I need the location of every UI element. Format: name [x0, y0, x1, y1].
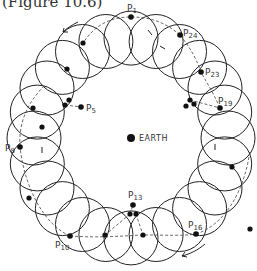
earth-label: EARTH — [139, 134, 168, 143]
position-dot — [133, 211, 138, 216]
epicycle-circle — [20, 161, 74, 215]
point-dot-p23 — [198, 69, 204, 75]
planet-position-dots — [17, 14, 252, 239]
epicycle-circle — [188, 161, 242, 215]
position-dot — [102, 232, 107, 237]
epicycle-circle — [104, 211, 158, 265]
epicycle-circle — [79, 15, 133, 69]
label-p5: P5 — [86, 103, 96, 115]
point-dot-p13 — [130, 202, 136, 208]
position-dot — [39, 124, 44, 129]
epicycle-circle — [56, 25, 110, 79]
epicycle-diagram: P1P24P23P19P5P8P13P16P10 EARTH — [0, 0, 257, 271]
point-dot-p10 — [67, 233, 73, 239]
position-dot — [66, 97, 71, 102]
point-dot-p24 — [177, 32, 183, 38]
position-dot — [26, 195, 31, 200]
epicycle-circle — [7, 111, 61, 165]
label-p23: P23 — [205, 67, 219, 79]
label-p13: P13 — [128, 190, 142, 202]
earth-dot — [127, 134, 135, 142]
point-dot-p5 — [78, 104, 84, 110]
label-p16: P16 — [188, 220, 203, 232]
position-dot — [140, 232, 145, 237]
point-dot-p1 — [128, 14, 134, 20]
position-dot — [127, 211, 132, 216]
position-dot — [191, 101, 196, 106]
label-p8: P8 — [5, 143, 15, 155]
position-dot — [62, 102, 67, 107]
position-dot — [183, 103, 188, 108]
label-p1: P1 — [127, 3, 137, 15]
epicycle-circle — [201, 111, 255, 165]
point-dot-p19 — [217, 105, 223, 111]
position-dot — [30, 105, 35, 110]
position-dot — [187, 97, 192, 102]
point-dot-p8 — [17, 144, 23, 150]
direction-arrow-icon — [148, 30, 152, 35]
position-dot — [64, 66, 69, 71]
position-dot — [229, 164, 234, 169]
epicycle-circle — [129, 15, 183, 69]
position-dot — [247, 226, 252, 231]
direction-arrow-icon — [160, 46, 165, 49]
point-dot-p16 — [193, 231, 199, 237]
epicycle-circle — [198, 85, 252, 139]
position-dot — [80, 40, 85, 45]
